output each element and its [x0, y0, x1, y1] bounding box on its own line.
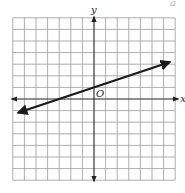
coordinate-graph: x y O a: [0, 0, 185, 193]
x-axis-label: x: [180, 93, 185, 104]
y-axis-label: y: [90, 4, 97, 15]
corner-glyph: a: [170, 0, 176, 8]
origin-label: O: [96, 88, 104, 99]
axes: [12, 17, 178, 181]
